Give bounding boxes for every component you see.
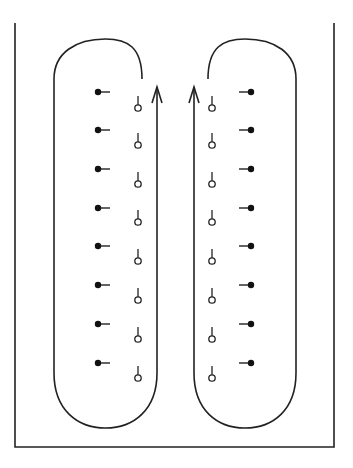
filled-dot-icon [95, 282, 101, 288]
filled-dot-icon [95, 166, 101, 172]
open-circle-icon [135, 297, 141, 303]
open-circle-icon [209, 219, 215, 225]
open-circle-icon [135, 181, 141, 187]
filled-dot-icon [95, 321, 101, 327]
open-circle-icon [209, 336, 215, 342]
open-circle-icon [209, 297, 215, 303]
left-loop [54, 39, 162, 428]
loop-channel [194, 39, 296, 428]
filled-dot-icon [248, 89, 254, 95]
filled-dot-icon [248, 127, 254, 133]
filled-dot-icon [95, 243, 101, 249]
open-circle-icon [135, 219, 141, 225]
filled-dot-icon [95, 89, 101, 95]
filled-dot-icon [95, 360, 101, 366]
enclosure-outline [15, 23, 334, 447]
filled-dot-icon [248, 282, 254, 288]
filled-dot-icon [248, 205, 254, 211]
filled-dot-icon [95, 127, 101, 133]
open-circle-icon [135, 105, 141, 111]
diagram-canvas [0, 0, 353, 468]
right-loop [189, 39, 296, 428]
filled-dot-icon [248, 360, 254, 366]
filled-dot-icon [248, 243, 254, 249]
open-circle-icon [135, 142, 141, 148]
open-circle-icon [135, 258, 141, 264]
enclosure-line [15, 23, 334, 447]
open-circle-icon [135, 375, 141, 381]
open-circle-icon [209, 181, 215, 187]
loop-diagram [0, 0, 353, 468]
open-circle-icon [209, 258, 215, 264]
loops-group [54, 39, 296, 428]
open-circle-icon [209, 142, 215, 148]
open-circle-icon [135, 336, 141, 342]
loop-channel [54, 39, 157, 428]
open-circle-icon [209, 105, 215, 111]
filled-dot-icon [95, 205, 101, 211]
open-circle-icon [209, 375, 215, 381]
filled-dot-icon [248, 166, 254, 172]
filled-dot-icon [248, 321, 254, 327]
